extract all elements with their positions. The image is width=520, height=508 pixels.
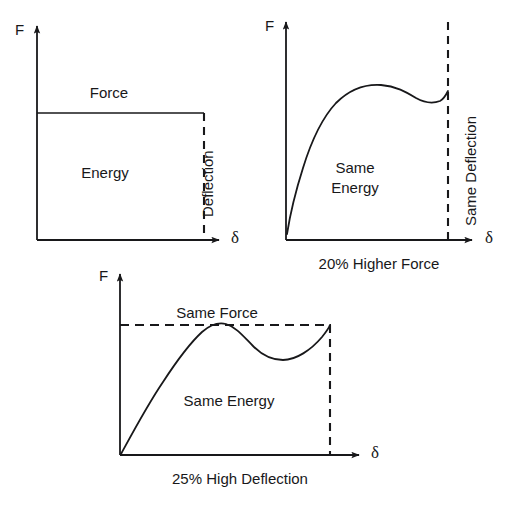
chart-1-deflection-label: Deflection: [200, 150, 215, 217]
figure-container: F δ Force Energy Deflection F δ Same Ene…: [0, 0, 520, 508]
figure-drawing: [0, 0, 520, 508]
chart-2-same-deflection-label: Same Deflection: [463, 116, 478, 226]
chart-3-group: [120, 274, 359, 455]
chart-2-same-energy-label-line2: Energy: [325, 180, 385, 195]
chart-1-force-label: Force: [81, 85, 137, 100]
chart-2-caption: 20% Higher Force: [286, 256, 472, 271]
chart-1-x-axis-label: δ: [231, 229, 239, 246]
chart-1-y-axis-label: F: [15, 22, 24, 37]
chart-2-same-energy-label-line1: Same: [325, 160, 385, 175]
chart-3-caption: 25% High Deflection: [120, 471, 360, 486]
chart-3-y-axis-label: F: [99, 268, 108, 283]
chart-2-y-axis-label: F: [265, 18, 274, 33]
chart-3-force-curve: [121, 323, 330, 454]
chart-2-x-axis-label: δ: [485, 229, 493, 246]
chart-3-same-energy-label: Same Energy: [176, 393, 282, 408]
chart-1-group: [37, 26, 219, 240]
chart-3-same-force-label: Same Force: [168, 305, 266, 320]
chart-3-x-axis-label: δ: [371, 444, 379, 461]
chart-2-group: [286, 22, 472, 240]
chart-1-energy-label: Energy: [70, 165, 140, 180]
